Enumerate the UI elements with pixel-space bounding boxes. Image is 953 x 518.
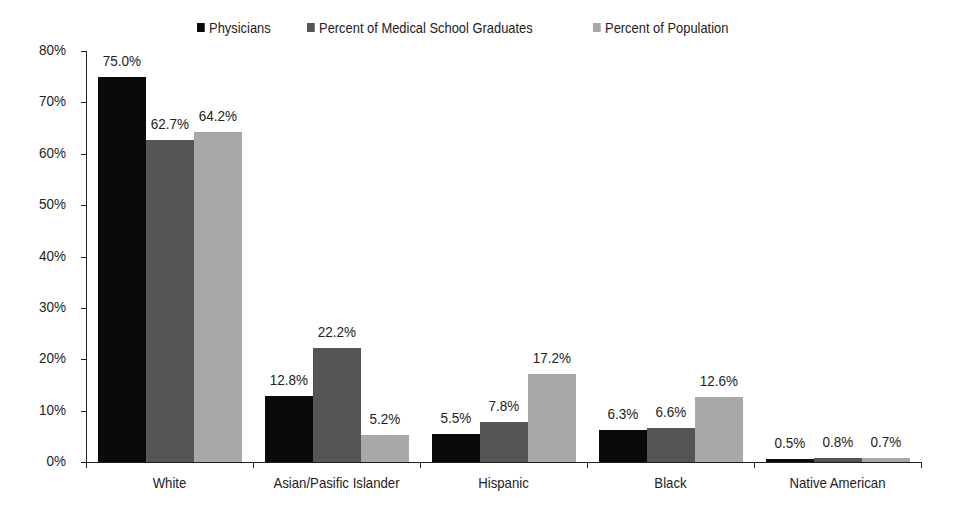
- x-category-label: White: [96, 474, 243, 491]
- bar-value-label: 0.7%: [859, 433, 913, 450]
- x-tick: [253, 462, 254, 468]
- bar-native-american-1: [814, 458, 862, 462]
- x-category-label: Black: [597, 474, 744, 491]
- bar-chart-plot-area: 0%10%20%30%40%50%60%70%80%75.0%62.7%64.2…: [0, 0, 953, 518]
- bar-value-label: 6.6%: [644, 403, 698, 420]
- y-tick-label: 60%: [19, 144, 66, 161]
- x-tick: [587, 462, 588, 468]
- bar-value-label: 0.8%: [811, 433, 865, 450]
- y-axis: [86, 51, 87, 463]
- y-tick-label: 40%: [19, 247, 66, 264]
- bar-black-2: [695, 397, 743, 462]
- x-tick: [921, 462, 922, 468]
- y-tick: [81, 257, 86, 258]
- bar-value-label: 0.5%: [763, 434, 817, 451]
- bar-value-label: 17.2%: [525, 349, 579, 366]
- bar-value-label: 75.0%: [95, 52, 149, 69]
- x-axis: [81, 462, 921, 463]
- y-tick: [81, 51, 86, 52]
- y-tick: [81, 205, 86, 206]
- bar-asian-pasific-islander-1: [313, 348, 361, 462]
- bar-white-2: [194, 132, 242, 462]
- bar-value-label: 64.2%: [191, 107, 245, 124]
- y-tick: [81, 154, 86, 155]
- bar-value-label: 12.6%: [692, 372, 746, 389]
- y-tick: [81, 359, 86, 360]
- bar-value-label: 5.2%: [358, 410, 412, 427]
- y-tick-label: 80%: [19, 41, 66, 58]
- x-category-label: Asian/Pasific Islander: [263, 474, 410, 491]
- x-tick: [754, 462, 755, 468]
- y-tick: [81, 102, 86, 103]
- x-tick: [420, 462, 421, 468]
- bar-black-1: [647, 428, 695, 462]
- x-category-label: Native American: [764, 474, 911, 491]
- bar-value-label: 7.8%: [477, 397, 531, 414]
- x-category-label: Hispanic: [430, 474, 577, 491]
- y-tick-label: 30%: [19, 298, 66, 315]
- y-tick-label: 70%: [19, 92, 66, 109]
- bar-white-1: [146, 140, 194, 462]
- bar-value-label: 6.3%: [596, 405, 650, 422]
- bar-native-american-0: [766, 459, 814, 462]
- bar-value-label: 5.5%: [429, 409, 483, 426]
- bar-black-0: [599, 430, 647, 462]
- bar-white-0: [98, 77, 146, 462]
- y-tick-label: 0%: [19, 452, 66, 469]
- bar-native-american-2: [862, 458, 910, 462]
- bar-hispanic-1: [480, 422, 528, 462]
- bar-value-label: 12.8%: [262, 371, 316, 388]
- y-tick-label: 20%: [19, 349, 66, 366]
- y-tick-label: 10%: [19, 401, 66, 418]
- y-tick-label: 50%: [19, 195, 66, 212]
- bar-hispanic-2: [528, 374, 576, 462]
- y-tick: [81, 411, 86, 412]
- bar-asian-pasific-islander-0: [265, 396, 313, 462]
- x-tick: [86, 462, 87, 468]
- bar-hispanic-0: [432, 434, 480, 462]
- bar-value-label: 62.7%: [143, 115, 197, 132]
- bar-asian-pasific-islander-2: [361, 435, 409, 462]
- y-tick: [81, 308, 86, 309]
- bar-value-label: 22.2%: [310, 323, 364, 340]
